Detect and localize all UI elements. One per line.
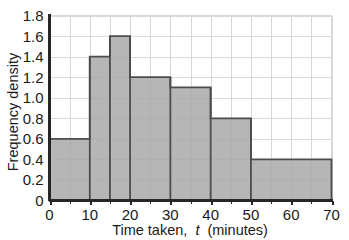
y-axis-tick-label: 0.8 (23, 110, 44, 127)
y-axis-title: Frequency density (5, 52, 21, 171)
histogram-bar (90, 57, 110, 201)
x-axis-tick-label: 60 (283, 206, 300, 223)
y-axis-tick-label: 0 (35, 192, 43, 209)
histogram-bar (170, 87, 210, 200)
x-axis-tick-label: 30 (162, 206, 179, 223)
x-axis-title-prefix: Time taken, (112, 222, 187, 238)
x-axis-title: Time taken, t (minutes) (112, 222, 268, 238)
x-axis-tick-label: 0 (45, 206, 53, 223)
chart-canvas: 00.20.40.60.81.01.21.41.61.8 01020304050… (0, 0, 349, 240)
histogram-bar (50, 139, 90, 201)
x-axis-title-suffix: (minutes) (207, 222, 267, 238)
histogram-bar (110, 36, 130, 200)
x-axis-title-variable: t (195, 222, 200, 238)
histogram-bar (211, 118, 251, 200)
histogram-bar (251, 159, 332, 200)
y-axis-tick-label: 1.8 (23, 7, 44, 24)
y-axis-tick-label: 1.6 (23, 28, 44, 45)
x-axis-tick-label: 10 (81, 206, 98, 223)
y-axis-tick-label: 1.4 (23, 48, 44, 65)
y-axis-tick-label: 0.4 (23, 151, 44, 168)
histogram-chart: 00.20.40.60.81.01.21.41.61.8 01020304050… (0, 0, 349, 240)
x-axis-tick-label: 40 (202, 206, 219, 223)
x-axis-tick-label: 50 (243, 206, 260, 223)
y-axis-tick-label: 1.2 (23, 69, 44, 86)
x-axis-tick-label: 70 (323, 206, 340, 223)
y-axis-tick-label: 0.6 (23, 130, 44, 147)
y-axis-tick-label: 1.0 (23, 89, 44, 106)
x-axis-tick-label: 20 (122, 206, 139, 223)
histogram-bar (130, 77, 170, 200)
y-axis-tick-label: 0.2 (23, 171, 44, 188)
